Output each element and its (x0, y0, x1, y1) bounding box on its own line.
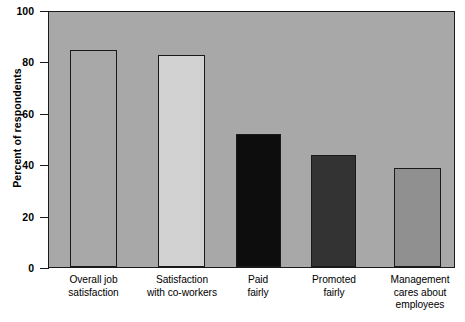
x-label-line: satisfaction (48, 287, 139, 300)
y-tick-0 (40, 268, 49, 269)
x-label-line: fairly (296, 287, 372, 300)
x-label-satisfaction-with-co-workers: Satisfaction with co-workers (134, 274, 230, 299)
y-tick-label-0: 0 (4, 263, 34, 274)
y-axis-title: Percent of respondents (11, 23, 23, 233)
y-tick-label-60: 60 (4, 109, 34, 120)
x-label-line: with co-workers (134, 287, 230, 300)
bar-promoted-fairly (311, 155, 356, 267)
x-label-line: cares about (378, 287, 462, 300)
bar-paid-fairly (236, 134, 281, 267)
y-tick-label-20: 20 (4, 212, 34, 223)
x-label-promoted-fairly: Promoted fairly (296, 274, 372, 299)
x-label-overall-job-satisfaction: Overall job satisfaction (48, 274, 139, 299)
x-label-line: fairly (228, 287, 288, 300)
y-tick-label-100: 100 (0, 6, 34, 17)
x-label-line: Promoted (296, 274, 372, 287)
x-label-paid-fairly: Paid fairly (228, 274, 288, 299)
y-tick-label-80: 80 (4, 57, 34, 68)
bar-overall-job-satisfaction (70, 50, 117, 267)
x-label-line: Paid (228, 274, 288, 287)
bar-management-cares-about-employees (394, 168, 441, 267)
x-label-line: Satisfaction (134, 274, 230, 287)
plot-area (48, 11, 455, 268)
x-label-line: Management (378, 274, 462, 287)
bar-chart-figure: Percent of respondents 0 20 40 60 80 100… (0, 0, 465, 322)
x-label-line: employees (378, 299, 462, 312)
y-tick-label-40: 40 (4, 160, 34, 171)
x-label-management-cares-about-employees: Management cares about employees (378, 274, 462, 312)
bar-satisfaction-with-co-workers (158, 55, 205, 267)
x-label-line: Overall job (48, 274, 139, 287)
